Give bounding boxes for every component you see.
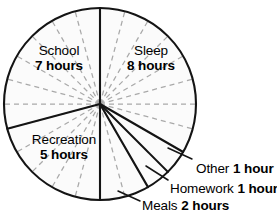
slice-label-homework-value: 1 hour bbox=[237, 181, 277, 196]
slice-label-meals: Meals 2 hours bbox=[142, 198, 229, 213]
slice-label-other: Other 1 hour bbox=[196, 161, 274, 176]
slice-label-meals-value: 2 hours bbox=[181, 198, 229, 213]
slice-label-homework-name: Homework bbox=[170, 181, 234, 196]
slice-label-meals-name: Meals bbox=[142, 198, 178, 213]
slice-label-other-name: Other bbox=[196, 161, 229, 176]
slice-label-recreation: Recreation 5 hours bbox=[16, 132, 112, 162]
slice-label-sleep: Sleep 8 hours bbox=[110, 43, 192, 73]
slice-label-sleep-value: 8 hours bbox=[110, 58, 192, 73]
slice-label-school-value: 7 hours bbox=[16, 58, 102, 73]
slice-label-other-value: 1 hour bbox=[233, 161, 274, 176]
slice-label-school-name: School bbox=[16, 43, 102, 58]
slice-label-recreation-value: 5 hours bbox=[16, 147, 112, 162]
slice-label-school: School 7 hours bbox=[16, 43, 102, 73]
slice-label-recreation-name: Recreation bbox=[16, 132, 112, 147]
slice-label-sleep-name: Sleep bbox=[110, 43, 192, 58]
pie-chart: Sleep 8 hours School 7 hours Recreation … bbox=[0, 0, 277, 215]
slice-label-homework: Homework 1 hour bbox=[170, 181, 277, 196]
